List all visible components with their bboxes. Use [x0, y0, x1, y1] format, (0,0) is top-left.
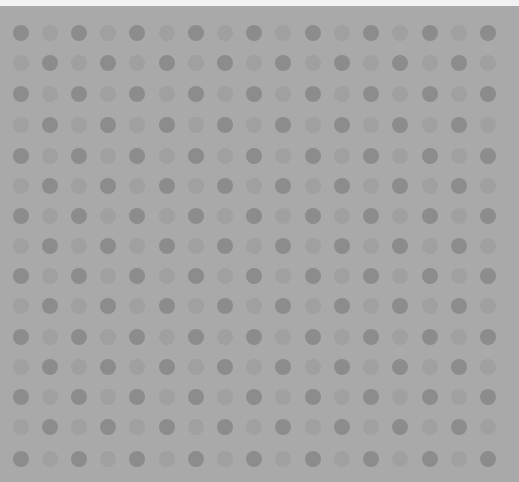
pattern-dot — [129, 359, 145, 375]
pattern-dot — [13, 208, 29, 224]
pattern-dot — [100, 389, 116, 405]
pattern-dot — [42, 208, 58, 224]
pattern-dot — [275, 389, 291, 405]
pattern-dot — [217, 268, 233, 284]
pattern-dot — [363, 208, 379, 224]
pattern-dot — [159, 148, 175, 164]
pattern-dot — [334, 25, 350, 41]
pattern-dot — [451, 298, 467, 314]
pattern-dot — [188, 451, 204, 467]
pattern-dot — [305, 55, 321, 71]
pattern-dot — [188, 117, 204, 133]
pattern-dot — [100, 148, 116, 164]
pattern-dot — [42, 25, 58, 41]
pattern-dot — [422, 329, 438, 345]
pattern-dot — [42, 86, 58, 102]
pattern-dot — [275, 359, 291, 375]
pattern-dot — [13, 238, 29, 254]
pattern-dot — [13, 86, 29, 102]
pattern-dot — [13, 178, 29, 194]
pattern-dot — [275, 329, 291, 345]
pattern-dot — [159, 117, 175, 133]
pattern-dot — [451, 389, 467, 405]
pattern-dot — [305, 117, 321, 133]
pattern-dot — [159, 298, 175, 314]
pattern-dot — [246, 451, 262, 467]
pattern-dot — [480, 419, 496, 435]
pattern-dot — [392, 148, 408, 164]
pattern-dot — [217, 117, 233, 133]
pattern-dot — [71, 148, 87, 164]
pattern-dot — [217, 178, 233, 194]
pattern-dot — [71, 55, 87, 71]
pattern-dot — [188, 329, 204, 345]
pattern-dot — [305, 298, 321, 314]
pattern-dot — [188, 148, 204, 164]
pattern-dot — [392, 268, 408, 284]
pattern-dot — [392, 178, 408, 194]
pattern-dot — [159, 359, 175, 375]
pattern-dot — [100, 419, 116, 435]
pattern-dot — [305, 389, 321, 405]
pattern-dot — [217, 208, 233, 224]
pattern-dot — [159, 268, 175, 284]
pattern-dot — [275, 25, 291, 41]
pattern-dot — [100, 208, 116, 224]
pattern-dot — [71, 419, 87, 435]
pattern-dot — [129, 298, 145, 314]
pattern-dot — [392, 86, 408, 102]
pattern-dot — [480, 329, 496, 345]
pattern-dot — [363, 268, 379, 284]
pattern-dot — [334, 268, 350, 284]
pattern-dot — [246, 298, 262, 314]
pattern-dot — [422, 86, 438, 102]
pattern-dot — [334, 359, 350, 375]
pattern-dot — [129, 55, 145, 71]
pattern-dot — [159, 451, 175, 467]
pattern-dot — [451, 148, 467, 164]
pattern-dot — [188, 86, 204, 102]
pattern-dot — [13, 148, 29, 164]
pattern-dot — [71, 298, 87, 314]
pattern-dot — [275, 298, 291, 314]
pattern-dot — [422, 451, 438, 467]
pattern-dot — [129, 25, 145, 41]
pattern-dot — [71, 329, 87, 345]
pattern-dot — [42, 238, 58, 254]
pattern-dot — [42, 268, 58, 284]
pattern-dot — [480, 359, 496, 375]
pattern-dot — [188, 178, 204, 194]
pattern-dot — [363, 25, 379, 41]
pattern-dot — [217, 86, 233, 102]
pattern-dot — [217, 389, 233, 405]
pattern-dot — [451, 117, 467, 133]
pattern-dot — [100, 238, 116, 254]
pattern-dot — [71, 268, 87, 284]
pattern-dot — [305, 359, 321, 375]
pattern-dot — [129, 268, 145, 284]
pattern-dot — [159, 25, 175, 41]
pattern-dot — [334, 329, 350, 345]
pattern-dot — [422, 238, 438, 254]
pattern-dot — [159, 419, 175, 435]
pattern-dot — [451, 329, 467, 345]
pattern-dot — [129, 148, 145, 164]
pattern-dot — [305, 178, 321, 194]
pattern-dot — [334, 86, 350, 102]
pattern-dot — [42, 148, 58, 164]
pattern-dot — [392, 389, 408, 405]
pattern-dot — [13, 419, 29, 435]
pattern-dot — [159, 86, 175, 102]
pattern-dot — [422, 419, 438, 435]
pattern-dot — [480, 238, 496, 254]
pattern-dot — [129, 117, 145, 133]
pattern-dot — [451, 208, 467, 224]
pattern-dot — [159, 329, 175, 345]
pattern-dot — [42, 329, 58, 345]
pattern-dot — [217, 419, 233, 435]
pattern-dot — [334, 451, 350, 467]
pattern-dot — [13, 389, 29, 405]
pattern-dot — [217, 359, 233, 375]
pattern-dot — [246, 55, 262, 71]
pattern-dot — [246, 117, 262, 133]
